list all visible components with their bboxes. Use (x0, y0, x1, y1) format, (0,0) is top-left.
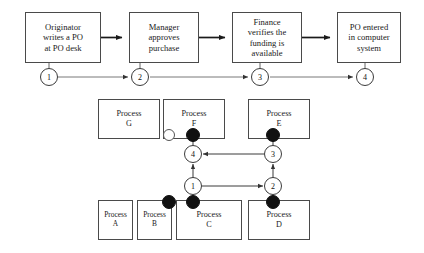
connector-lines (0, 0, 424, 253)
petri-arc-group (193, 139, 273, 199)
petri-node-3: 3 (264, 145, 282, 163)
petri-node-1: 1 (184, 177, 202, 195)
token-filled-process-d (266, 195, 280, 209)
milestone-circle-4: 4 (356, 68, 374, 86)
milestone-circle-3: 3 (251, 68, 269, 86)
token-hollow-process-f (163, 129, 175, 141)
petri-node-4: 4 (184, 145, 202, 163)
token-filled-process-c-left (162, 195, 176, 209)
milestone-circle-2: 2 (131, 68, 149, 86)
milestone-circle-1: 1 (40, 68, 58, 86)
process-flow-figure: Originator writes a PO at PO desk Manage… (0, 0, 424, 253)
milestone-stem-group (49, 63, 365, 70)
token-filled-process-c-right (186, 195, 200, 209)
token-filled-process-f (186, 128, 200, 142)
petri-node-2: 2 (264, 177, 282, 195)
token-filled-process-e (266, 128, 280, 142)
